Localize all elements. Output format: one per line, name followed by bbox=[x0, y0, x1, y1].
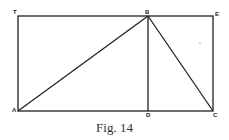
segment-BC bbox=[148, 16, 213, 111]
speck bbox=[199, 42, 200, 43]
label-E: E bbox=[215, 11, 219, 17]
label-A: A bbox=[12, 107, 16, 113]
label-T: T bbox=[13, 9, 17, 15]
label-D: D bbox=[146, 112, 150, 118]
label-C: C bbox=[213, 112, 217, 118]
segment-AB bbox=[18, 16, 148, 111]
label-B: B bbox=[145, 9, 149, 15]
geometry-diagram bbox=[0, 0, 229, 140]
figure-caption: Fig. 14 bbox=[0, 120, 229, 136]
outer-rectangle bbox=[18, 16, 213, 111]
